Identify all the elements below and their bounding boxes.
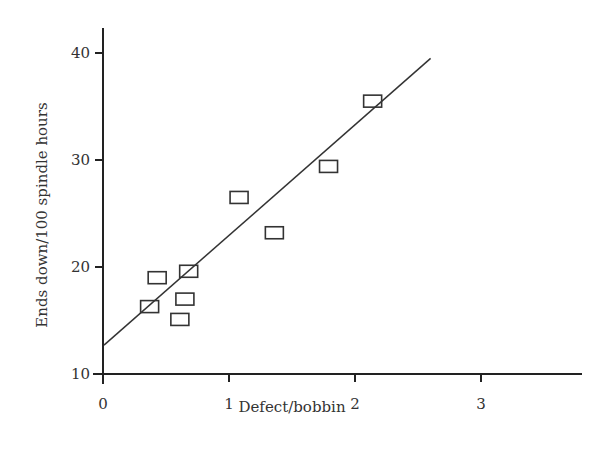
x-tick-label: 1 (224, 395, 234, 413)
x-axis-label: Defect/bobbin (238, 398, 345, 416)
x-tick-label: 0 (98, 395, 108, 413)
y-axis-label: Ends down/100 spindle hours (33, 102, 51, 327)
data-point-marker (364, 95, 382, 107)
data-point-marker (265, 227, 283, 239)
x-tick-label: 3 (476, 395, 486, 413)
data-point-marker (148, 272, 166, 284)
data-point-marker (176, 293, 194, 305)
y-tick-label: 30 (71, 151, 90, 169)
axes (93, 28, 582, 384)
y-tick-label: 20 (71, 258, 90, 276)
x-tick-label: 2 (350, 395, 360, 413)
y-tick-label: 40 (71, 44, 90, 62)
data-point-marker (320, 160, 338, 172)
y-tick-label: 10 (71, 365, 90, 383)
scatter-chart: 102030400123 Defect/bobbin Ends down/100… (0, 0, 610, 467)
tick-labels: 102030400123 (71, 44, 486, 413)
data-point-marker (230, 191, 248, 203)
data-point-marker (171, 313, 189, 325)
data-markers (141, 95, 382, 325)
